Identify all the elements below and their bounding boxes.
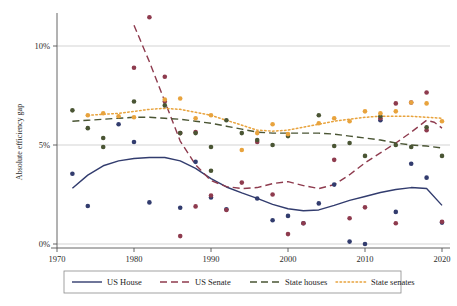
data-point: [86, 113, 91, 118]
x-tick-label: 1980: [126, 254, 143, 264]
y-tick-label: 10%: [34, 41, 50, 51]
x-tick-label: 1970: [49, 254, 66, 264]
data-point: [209, 113, 214, 118]
data-point: [270, 143, 275, 148]
y-axis-title: Absolute efficiency gap: [15, 104, 24, 180]
data-point: [240, 180, 245, 185]
data-point: [286, 232, 291, 237]
data-point: [409, 162, 414, 167]
data-point: [132, 140, 137, 145]
data-point: [163, 74, 168, 79]
data-point: [255, 138, 260, 143]
chart-legend[interactable]: US HouseUS SenateState housesState senat…: [64, 271, 415, 293]
data-point: [163, 103, 168, 108]
data-point: [86, 126, 91, 131]
data-point: [209, 193, 214, 198]
data-point: [270, 192, 275, 197]
data-point: [363, 154, 368, 159]
data-point: [394, 210, 399, 215]
data-point: [394, 101, 399, 106]
data-point: [347, 141, 352, 146]
y-axis-title-text: Absolute efficiency gap: [15, 104, 24, 180]
data-point: [440, 154, 445, 159]
data-point: [193, 160, 198, 165]
data-point: [178, 96, 183, 101]
data-point: [424, 175, 429, 180]
data-point: [101, 136, 106, 141]
data-point: [178, 205, 183, 210]
efficiency-gap-scatter-chart: 1970198019902000201020200%5%10% Absolute…: [0, 0, 457, 306]
data-point: [101, 145, 106, 150]
data-point: [347, 239, 352, 244]
data-point: [332, 116, 337, 121]
data-point: [424, 90, 429, 95]
y-tick-label: 5%: [39, 140, 50, 150]
x-tick-label: 2010: [357, 254, 374, 264]
data-point: [255, 196, 260, 201]
data-point: [178, 234, 183, 239]
data-point: [409, 100, 414, 105]
data-point: [193, 131, 198, 136]
data-point: [116, 114, 121, 119]
data-point: [209, 168, 214, 173]
data-point: [209, 145, 214, 150]
data-point: [394, 221, 399, 226]
legend-label: US Senate: [195, 277, 231, 287]
data-point: [440, 119, 445, 124]
legend-label: State houses: [285, 277, 327, 287]
data-point: [332, 144, 337, 149]
data-point: [317, 113, 322, 118]
data-point: [86, 204, 91, 209]
data-point: [224, 208, 229, 213]
data-point: [70, 108, 75, 113]
data-point: [240, 148, 245, 153]
data-point: [394, 143, 399, 148]
data-point: [193, 116, 198, 121]
data-point: [424, 125, 429, 130]
data-point: [147, 15, 152, 20]
data-point: [224, 118, 229, 123]
data-point: [363, 242, 368, 247]
legend-label: US House: [107, 277, 142, 287]
data-point: [347, 119, 352, 124]
data-point: [332, 158, 337, 163]
data-point: [101, 111, 106, 116]
x-tick-label: 2000: [280, 254, 297, 264]
data-point: [132, 65, 137, 70]
legend-label: State senates: [371, 277, 415, 287]
y-tick-label: 0%: [39, 239, 50, 249]
data-point: [424, 101, 429, 106]
data-point: [255, 131, 260, 136]
data-point: [163, 97, 168, 102]
data-point: [132, 99, 137, 104]
data-point: [409, 145, 414, 150]
data-point: [240, 131, 245, 136]
data-point: [363, 109, 368, 114]
data-point: [347, 216, 352, 221]
data-point: [270, 218, 275, 223]
data-point: [394, 109, 399, 114]
data-point: [147, 200, 152, 205]
data-point: [440, 220, 445, 225]
chart-figure: 1970198019902000201020200%5%10% Absolute…: [0, 0, 457, 306]
data-point: [317, 121, 322, 126]
data-point: [178, 131, 183, 136]
data-point: [116, 122, 121, 127]
x-tick-label: 1990: [203, 254, 220, 264]
data-point: [317, 201, 322, 206]
data-point: [193, 204, 198, 209]
data-point: [70, 171, 75, 176]
data-point: [286, 132, 291, 137]
data-point: [132, 115, 137, 120]
data-point: [378, 111, 383, 116]
data-point: [332, 182, 337, 187]
x-tick-label: 2020: [434, 254, 451, 264]
data-point: [363, 205, 368, 210]
data-point: [286, 214, 291, 219]
data-point: [301, 221, 306, 226]
data-point: [270, 122, 275, 127]
